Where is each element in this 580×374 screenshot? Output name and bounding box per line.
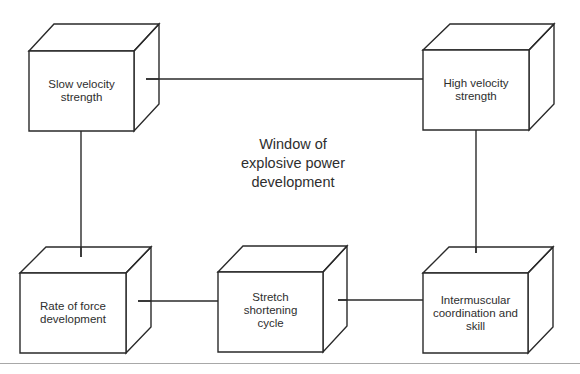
node-label-rate-of-force-development: Rate of force development	[20, 273, 126, 353]
node-label-high-velocity-strength: High velocity strength	[423, 50, 529, 130]
cube-top-face	[423, 247, 553, 273]
cube-top-face	[29, 24, 159, 51]
cube-top-face	[20, 247, 151, 273]
node-label-intermuscular-coordination: Intermuscular coordination and skill	[423, 273, 528, 353]
node-label-slow-velocity-strength: Slow velocity strength	[29, 51, 134, 131]
center-label-window-of-explosive-power: Window of explosive power development	[228, 135, 358, 192]
footer-divider	[0, 363, 580, 364]
cube-top-face	[218, 246, 347, 272]
node-label-stretch-shortening-cycle: Stretch shortening cycle	[218, 272, 323, 348]
cube-side-face	[529, 24, 554, 130]
cube-side-face	[134, 24, 159, 131]
cube-side-face	[126, 247, 151, 353]
cube-top-face	[423, 24, 554, 50]
cube-side-face	[528, 247, 553, 353]
cube-side-face	[323, 246, 347, 352]
